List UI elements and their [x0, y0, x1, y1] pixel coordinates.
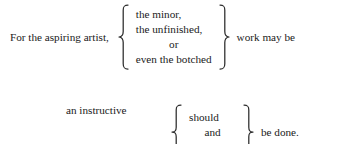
left-brace-icon	[118, 4, 129, 70]
row-2-lead-text: an instructive model for how things	[66, 74, 162, 144]
option-item: even the botched	[136, 52, 212, 67]
option-item: and	[189, 125, 236, 140]
right-brace-icon	[219, 4, 230, 70]
left-brace-icon	[171, 104, 182, 144]
row-1-brace-group: the minor, the unfinished, or even the b…	[118, 4, 230, 70]
row-1-tail-text: work may be	[237, 30, 295, 45]
option-item: should not	[189, 140, 236, 144]
right-brace-icon	[243, 104, 254, 144]
figure-canvas: For the aspiring artist, the minor, the …	[0, 0, 352, 144]
option-item: the minor,	[136, 7, 212, 22]
row-2-options: should and should not	[182, 104, 243, 144]
row-1-options: the minor, the unfinished, or even the b…	[129, 4, 219, 70]
construction-row-2: an instructive model for how things shou…	[66, 74, 299, 144]
construction-row-1: For the aspiring artist, the minor, the …	[10, 4, 295, 70]
row-2-brace-group: should and should not	[171, 104, 254, 144]
option-item: the unfinished,	[136, 22, 212, 37]
option-item: should	[189, 110, 236, 125]
row-2-tail-text: be done.	[261, 125, 299, 140]
row-2-lead-line-1: an instructive	[66, 103, 162, 118]
option-item: or	[136, 37, 212, 52]
row-1-lead-text: For the aspiring artist,	[10, 30, 109, 45]
